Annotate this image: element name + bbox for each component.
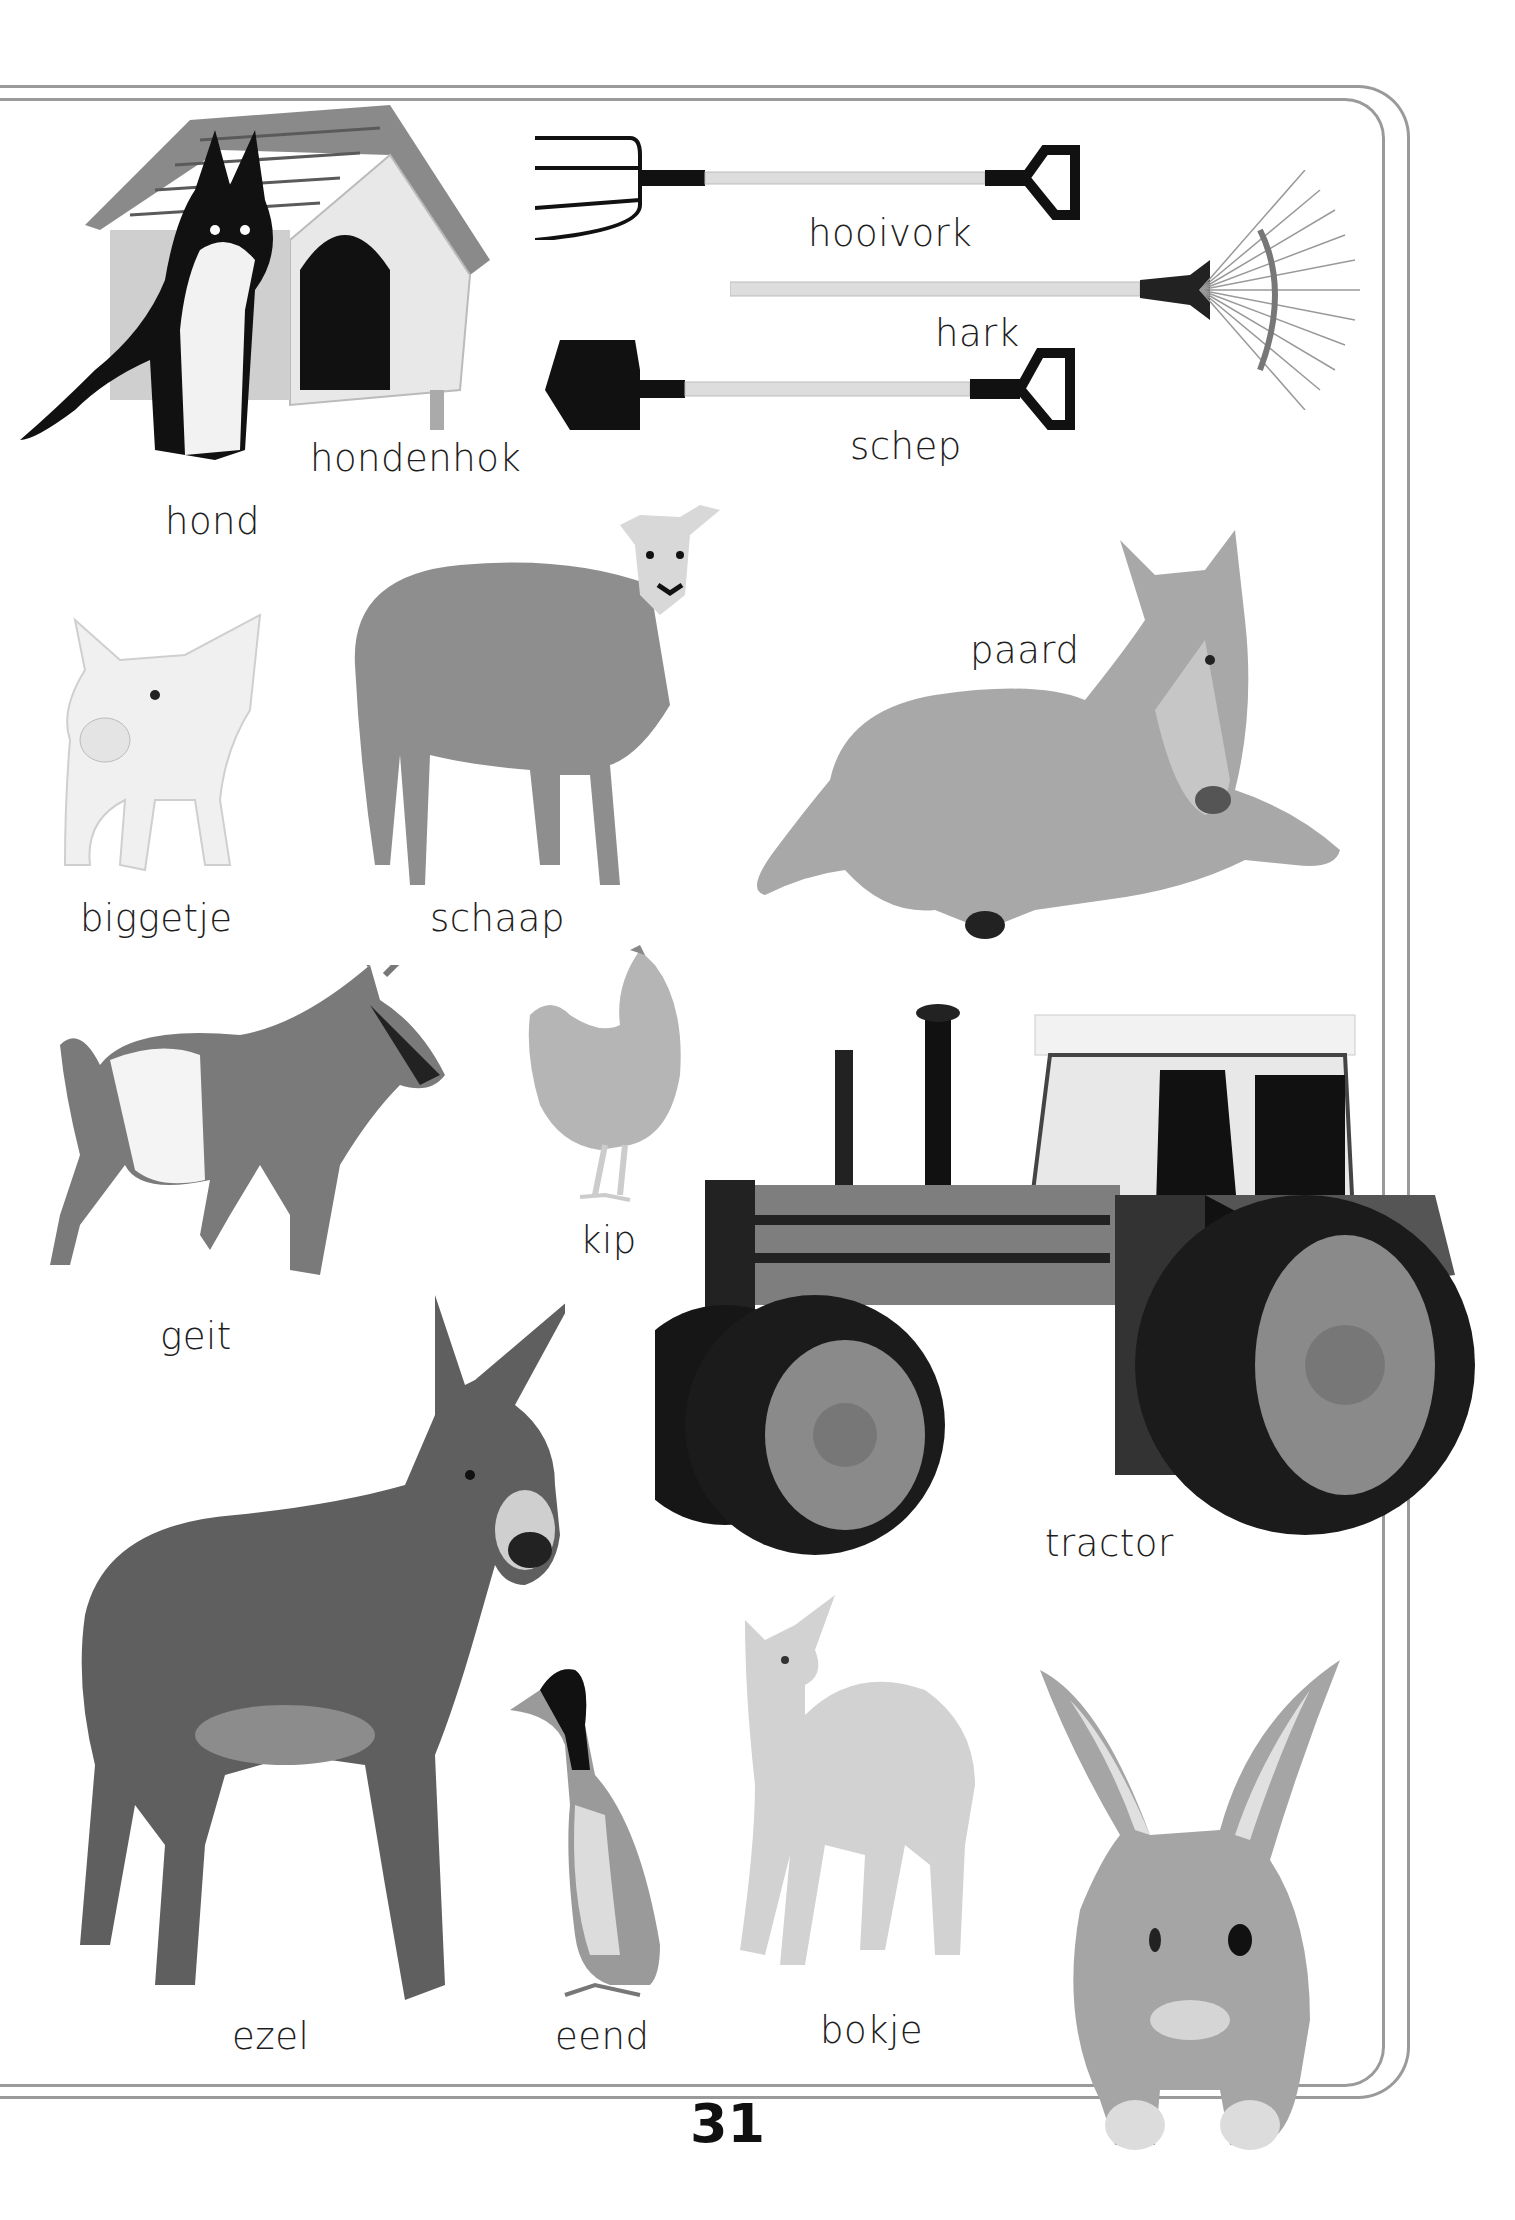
goat-icon — [40, 965, 460, 1295]
piglet-label: biggetje — [80, 900, 233, 937]
foal-icon — [735, 510, 1355, 950]
shovel-label: schep — [850, 428, 962, 465]
sheep-label: schaap — [430, 900, 565, 937]
dog-label: hond — [165, 503, 260, 540]
sheep-icon — [340, 505, 740, 895]
tractor-icon — [655, 995, 1475, 1555]
page-number: 31 — [690, 2092, 765, 2155]
duck-icon — [510, 1655, 660, 2000]
kid-goat-icon — [735, 1595, 995, 1970]
tractor-label: tractor — [1045, 1525, 1174, 1562]
duck-label: eend — [555, 2018, 649, 2055]
donkey-icon — [75, 1285, 565, 2015]
piglet-icon — [35, 600, 265, 880]
kid-goat-label: bokje — [820, 2012, 923, 2049]
donkey-label: ezel — [232, 2018, 309, 2055]
doghouse-label: hondenhok — [310, 440, 521, 477]
dog-icon — [15, 110, 315, 470]
rabbit-icon — [1040, 1660, 1350, 2160]
chicken-label: kip — [580, 1222, 637, 1259]
shovel-icon — [545, 335, 1165, 435]
foal-label: paard — [970, 632, 1079, 669]
